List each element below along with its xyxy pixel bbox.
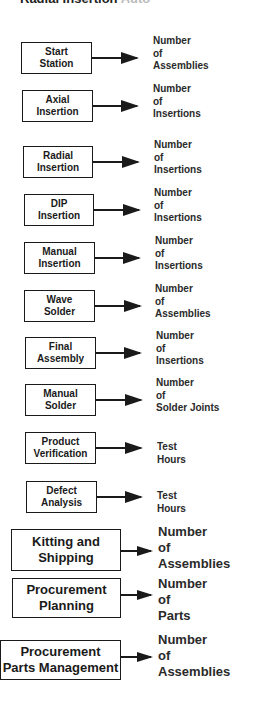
process-step-label: Manual — [42, 246, 76, 258]
process-step-box: DefectAnalysis — [26, 481, 97, 513]
metric-label-line: of — [156, 343, 204, 356]
metric-label: NumberofAssemblies — [153, 35, 209, 73]
metric-label-line: Number — [158, 632, 230, 648]
metric-label: NumberofInsertions — [153, 83, 201, 121]
arrowhead-icon — [125, 442, 143, 454]
arrowhead-icon — [124, 347, 142, 359]
process-step-label: Solder — [45, 400, 76, 412]
metric-label-line: Number — [155, 283, 211, 296]
metric-label-line: Parts — [158, 608, 207, 624]
process-step-label: Kitting and — [32, 534, 100, 550]
metric-label-line: Insertions — [154, 164, 202, 177]
process-step-label: Product — [42, 436, 80, 448]
arrow-connector — [121, 656, 151, 658]
metric-label: NumberofInsertions — [154, 187, 202, 225]
metric-label-line: Insertions — [156, 355, 204, 368]
arrow-connector — [94, 209, 139, 211]
metric-label-line: of — [158, 592, 207, 608]
process-step-box: ProcurementPlanning — [12, 578, 121, 618]
process-step-box: ProductVerification — [25, 432, 96, 464]
process-step-box: ProcurementParts Management — [0, 640, 121, 680]
process-step-box: StartStation — [21, 42, 92, 74]
metric-label-line: Assemblies — [153, 60, 209, 73]
arrowhead-icon — [123, 252, 141, 264]
arrow-connector — [97, 496, 141, 498]
process-step-label: Defect — [46, 485, 77, 497]
metric-label-line: Number — [155, 235, 203, 248]
title-text: Radial Insertion — [20, 0, 121, 6]
arrowhead-icon — [121, 52, 139, 64]
arrowhead-icon — [137, 546, 153, 556]
metric-label-line: Number — [153, 83, 201, 96]
arrowhead-icon — [125, 491, 143, 503]
metric-label-line: Solder Joints — [156, 402, 219, 415]
arrowhead-icon — [125, 394, 143, 406]
process-step-label: Station — [40, 58, 74, 70]
metric-label-line: Assemblies — [155, 308, 211, 321]
process-step-label: Manual — [43, 388, 77, 400]
arrow-connector — [121, 550, 151, 552]
metric-label-line: of — [153, 48, 209, 61]
process-step-label: Procurement — [26, 582, 106, 598]
arrowhead-icon — [121, 100, 139, 112]
process-step-box: ManualInsertion — [24, 242, 95, 274]
metric-label-line: Number — [154, 139, 202, 152]
arrow-connector — [121, 594, 151, 596]
metric-label-line: of — [158, 540, 230, 556]
metric-label-line: Hours — [157, 454, 186, 467]
metric-label: NumberofAssemblies — [158, 524, 230, 572]
metric-label-line: Insertions — [153, 108, 201, 121]
process-step-label: Analysis — [41, 497, 82, 509]
arrowhead-icon — [124, 300, 142, 312]
process-step-label: Assembly — [37, 353, 84, 365]
process-step-box: FinalAssembly — [25, 337, 96, 369]
process-step-label: Wave — [47, 294, 73, 306]
process-step-label: Shipping — [38, 550, 94, 566]
metric-label-line: Number — [156, 377, 219, 390]
metric-label: TestHours — [157, 490, 186, 515]
arrow-connector — [92, 57, 137, 59]
process-step-label: Insertion — [38, 210, 80, 222]
process-step-label: Insertion — [37, 162, 79, 174]
metric-label-line: of — [158, 648, 230, 664]
title-faded-text: Auto — [121, 0, 151, 6]
metric-label-line: Hours — [157, 503, 186, 516]
process-step-label: Final — [49, 341, 72, 353]
process-step-label: Parts Management — [3, 660, 119, 676]
process-step-label: Axial — [46, 94, 70, 106]
metric-label: NumberofParts — [158, 576, 207, 624]
metric-label-line: of — [155, 296, 211, 309]
process-step-label: Radial — [43, 150, 73, 162]
arrowhead-icon — [137, 652, 153, 662]
metric-label-line: of — [154, 152, 202, 165]
metric-label: NumberofSolder Joints — [156, 377, 219, 415]
process-step-box: RadialInsertion — [23, 146, 93, 178]
arrow-connector — [95, 305, 140, 307]
process-step-box: AxialInsertion — [22, 90, 93, 122]
metric-label-line: Assemblies — [158, 664, 230, 680]
metric-label-line: of — [155, 248, 203, 261]
metric-label-line: Test — [157, 441, 186, 454]
arrow-connector — [96, 352, 140, 354]
arrowhead-icon — [123, 204, 141, 216]
process-step-label: Start — [45, 46, 68, 58]
process-step-label: Insertion — [36, 106, 78, 118]
metric-label: NumberofInsertions — [154, 139, 202, 177]
process-step-label: Insertion — [38, 258, 80, 270]
metric-label-line: Test — [157, 490, 186, 503]
metric-label-line: Number — [158, 524, 230, 540]
process-step-label: Verification — [34, 448, 88, 460]
metric-label-line: Insertions — [154, 212, 202, 225]
process-step-box: DIPInsertion — [24, 194, 94, 226]
arrow-connector — [93, 161, 138, 163]
process-step-label: DIP — [51, 198, 68, 210]
metric-label-line: of — [156, 390, 219, 403]
metric-label-line: Number — [158, 576, 207, 592]
metric-label-line: Number — [154, 187, 202, 200]
process-step-label: Procurement — [20, 644, 100, 660]
metric-label-line: Insertions — [155, 260, 203, 273]
metric-label: NumberofAssemblies — [158, 632, 230, 680]
metric-label-line: Assemblies — [158, 556, 230, 572]
metric-label: NumberofAssemblies — [155, 283, 211, 321]
process-step-label: Solder — [44, 306, 75, 318]
